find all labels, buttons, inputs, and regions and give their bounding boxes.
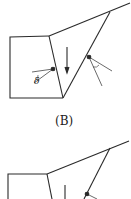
failure-plane	[63, 12, 110, 98]
wall-back-face	[49, 36, 63, 98]
angle-delta-label: δ	[34, 76, 39, 86]
backfill-surface-2	[47, 141, 129, 174]
backfill-surface	[49, 3, 130, 36]
wall-block	[10, 36, 63, 98]
wall-block-2	[8, 174, 47, 199]
arrowhead-icon	[65, 67, 69, 73]
failure-plane-2	[84, 148, 110, 199]
figure-caption: (B)	[55, 114, 73, 128]
figure-second	[8, 141, 129, 199]
diagram-canvas	[0, 0, 131, 199]
figure-b	[10, 3, 130, 98]
